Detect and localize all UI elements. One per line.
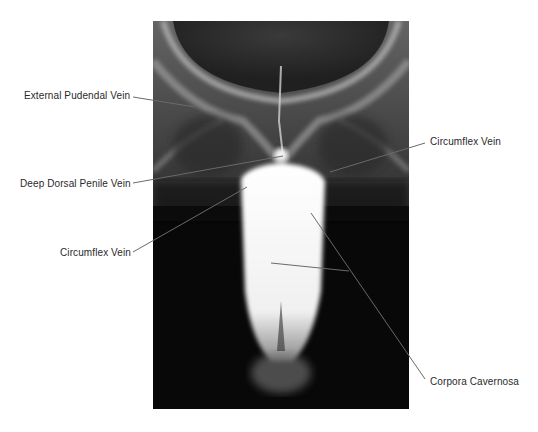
label-circumflex-vein-left: Circumflex Vein — [60, 247, 131, 259]
label-external-pudendal-vein: External Pudendal Vein — [24, 90, 130, 102]
annotated-xray-figure: External Pudendal Vein Deep Dorsal Penil… — [0, 0, 538, 432]
label-deep-dorsal-penile-vein: Deep Dorsal Penile Vein — [20, 178, 131, 190]
xray-image — [153, 21, 409, 409]
label-circumflex-vein-right: Circumflex Vein — [430, 136, 501, 148]
label-corpora-cavernosa: Corpora Cavernosa — [430, 376, 519, 388]
